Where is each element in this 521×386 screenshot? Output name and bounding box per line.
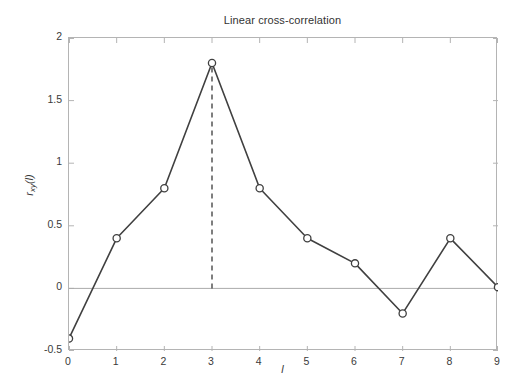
y-axis-label-subscript: xy xyxy=(28,184,37,192)
plot-svg xyxy=(69,38,498,351)
y-tick-label: 2 xyxy=(22,30,62,42)
y-axis-label: rxy(l) xyxy=(23,149,37,221)
data-line-series xyxy=(69,63,498,338)
chart-title: Linear cross-correlation xyxy=(68,14,497,26)
y-axis-label-argument: (l) xyxy=(23,174,35,184)
y-tick-label: 1.5 xyxy=(22,93,62,105)
data-point-markers xyxy=(69,59,498,342)
x-axis-label: l xyxy=(68,363,497,375)
plot-area xyxy=(68,37,497,350)
figure-canvas: Linear cross-correlation -0.500.511.52 0… xyxy=(0,0,521,386)
y-tick-label: 0 xyxy=(22,280,62,292)
axis-ticks xyxy=(69,38,498,351)
y-axis-label-base: r xyxy=(23,192,35,196)
y-tick-label: -0.5 xyxy=(22,343,62,355)
